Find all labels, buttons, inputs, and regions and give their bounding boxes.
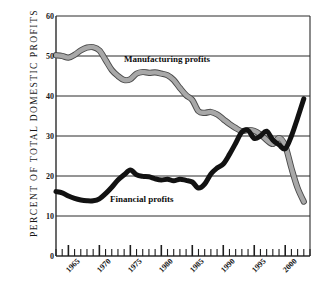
series-financial-profits bbox=[56, 99, 304, 201]
chart-figure: PERCENT OF TOTAL DOMESTIC PROFITS 60 50 … bbox=[0, 0, 326, 297]
series-label-manufacturing: Manufacturing profits bbox=[124, 54, 210, 64]
y-tick-label-0: 0 bbox=[28, 252, 54, 261]
y-tick-label-60: 60 bbox=[28, 12, 54, 21]
data-series-layer bbox=[56, 47, 304, 202]
y-tick-label-30: 30 bbox=[28, 132, 54, 141]
series-line bbox=[56, 99, 304, 201]
series-label-financial: Financial profits bbox=[110, 194, 174, 204]
y-tick-label-40: 40 bbox=[28, 92, 54, 101]
y-tick-label-50: 50 bbox=[28, 52, 54, 61]
y-axis-title: PERCENT OF TOTAL DOMESTIC PROFITS bbox=[29, 3, 39, 243]
x-axis-ticks bbox=[56, 245, 310, 256]
y-tick-label-10: 10 bbox=[28, 212, 54, 221]
y-tick-label-20: 20 bbox=[28, 172, 54, 181]
